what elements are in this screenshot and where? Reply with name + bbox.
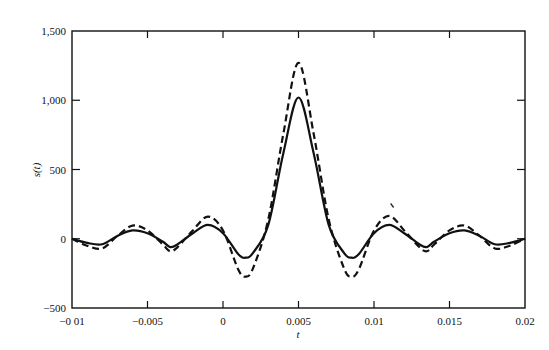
y-axis-label: s(t) bbox=[30, 162, 43, 177]
y-tick-label: 0 bbox=[61, 233, 67, 245]
x-tick-label: 0.015 bbox=[437, 315, 462, 327]
x-tick-label: −0.005 bbox=[132, 315, 163, 327]
x-tick-label: 0 bbox=[220, 315, 226, 327]
series-layer bbox=[72, 63, 525, 277]
stray-mark bbox=[391, 204, 394, 208]
y-axis-ticks: −50005001,0001,500 bbox=[41, 25, 525, 314]
series-solid-line bbox=[72, 97, 525, 257]
x-axis-label: t bbox=[296, 328, 300, 340]
x-axis-ticks: −0 01−0.00500.0050.010.0150.02 bbox=[59, 31, 534, 327]
x-tick-label: 0.005 bbox=[286, 315, 311, 327]
y-tick-label: 500 bbox=[50, 164, 67, 176]
y-tick-label: −500 bbox=[43, 302, 66, 314]
x-tick-label: 0.02 bbox=[515, 315, 534, 327]
chart: −0 01−0.00500.0050.010.0150.02 −50005001… bbox=[0, 0, 549, 350]
series-dashed-line bbox=[72, 63, 525, 277]
plot-area: −0 01−0.00500.0050.010.0150.02 −50005001… bbox=[41, 25, 534, 327]
x-tick-label: −0 01 bbox=[59, 315, 84, 327]
plot-frame bbox=[72, 31, 525, 308]
y-tick-label: 1,000 bbox=[41, 94, 66, 106]
y-tick-label: 1,500 bbox=[41, 25, 66, 37]
x-tick-label: 0.01 bbox=[364, 315, 383, 327]
annotation-layer bbox=[391, 204, 394, 208]
